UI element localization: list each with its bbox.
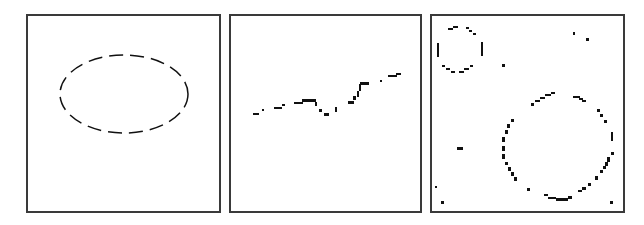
pixelated-curve-drawing xyxy=(231,16,424,215)
pixelated-circles-drawing xyxy=(432,16,627,215)
dashed-ellipse-drawing xyxy=(28,16,223,215)
panel-circles xyxy=(430,14,625,213)
panel-noisy-curve xyxy=(229,14,422,213)
panel-ellipse xyxy=(26,14,221,213)
